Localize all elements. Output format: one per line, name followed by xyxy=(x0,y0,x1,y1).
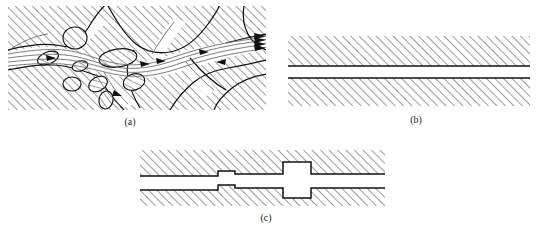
upper-block-c xyxy=(140,150,385,176)
caption-panel-c: (c) xyxy=(236,212,296,223)
caption-panel-a: (a) xyxy=(100,116,160,127)
panel-c-stepped-channel xyxy=(140,150,385,206)
figure-porous-flow-models: (a) (b) (c) xyxy=(0,0,543,240)
lower-block-b xyxy=(288,78,530,106)
caption-panel-b: (b) xyxy=(386,114,446,125)
panel-a-pore-network xyxy=(8,4,266,110)
figure-canvas xyxy=(0,0,543,240)
upper-block-b xyxy=(288,36,530,66)
panel-b-parallel-channel xyxy=(288,36,530,106)
